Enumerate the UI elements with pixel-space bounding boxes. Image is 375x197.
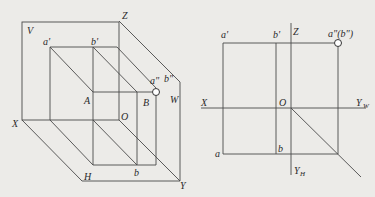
point-a-dprime: [153, 89, 160, 96]
figure-canvas: V Z a' b' a" b" W A B O X H b Y: [0, 0, 375, 197]
point-a-dprime-b-dprime: [335, 40, 342, 47]
label-Y: Y: [180, 180, 187, 191]
label-B: B: [143, 97, 149, 108]
label-Y-W: Y: [356, 97, 363, 108]
proj-a-h: [50, 120, 93, 165]
label-b: b: [134, 167, 139, 178]
left-pictorial-diagram: V Z a' b' a" b" W A B O X H b Y: [11, 10, 187, 191]
label-W: W: [170, 94, 180, 105]
label-Z: Z: [122, 10, 128, 21]
right-orthographic-diagram: a' b' Z a"(b") X O Y W a b Y H: [200, 23, 370, 178]
label-X: X: [11, 118, 19, 129]
label-a-prime: a': [221, 29, 229, 40]
label-a: a: [215, 148, 220, 159]
proj-b-prime-B: [93, 47, 137, 92]
oy-axis: [119, 120, 180, 181]
proj-b-h: [93, 120, 137, 165]
label-V: V: [27, 25, 35, 36]
v-plane: [22, 22, 119, 120]
proj-a-prime-A: [50, 47, 93, 92]
label-b: b: [278, 143, 283, 154]
label-Y-W-subscript: W: [363, 102, 370, 110]
label-b-dprime: b": [164, 73, 174, 84]
projection-figure: V Z a' b' a" b" W A B O X H b Y: [0, 0, 375, 197]
label-A: A: [83, 95, 91, 106]
label-a-dprime: a": [150, 75, 160, 86]
label-b-prime: b': [273, 29, 281, 40]
label-a-prime: a': [43, 36, 51, 47]
label-O: O: [121, 111, 128, 122]
label-b-prime: b': [91, 36, 99, 47]
label-Z: Z: [293, 26, 299, 37]
label-X: X: [200, 97, 208, 108]
label-Y-H-subscript: H: [299, 170, 306, 178]
label-O: O: [279, 97, 286, 108]
diagonal-45: [291, 108, 361, 177]
label-H: H: [83, 171, 92, 182]
label-a-dprime-b-dprime: a"(b"): [328, 28, 354, 40]
